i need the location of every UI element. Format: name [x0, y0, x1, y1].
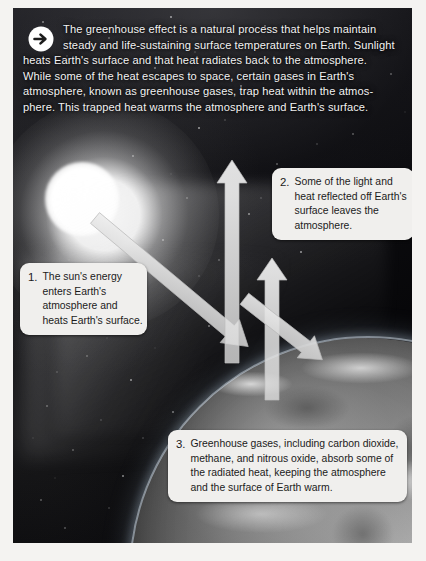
callout-text: Greenhouse gases, including carbon dioxi… — [191, 437, 399, 495]
sun-icon — [45, 162, 119, 236]
callout-step-1: 1. The sun's energy enters Earth's atmos… — [20, 263, 147, 335]
callout-line: and the surface of Earth warm. — [191, 481, 399, 496]
arrow-right-circle-icon — [27, 25, 55, 53]
intro-paragraph: The greenhouse effect is a natural proce… — [23, 22, 401, 116]
greenhouse-effect-illustration: The greenhouse effect is a natural proce… — [13, 8, 412, 543]
callout-line: surface leaves the — [295, 204, 407, 219]
callout-line: the radiated heat, keeping the atmospher… — [191, 466, 399, 481]
intro-line: phere. This trapped heat warms the atmos… — [23, 100, 401, 116]
intro-caption: The greenhouse effect is a natural proce… — [23, 22, 401, 116]
intro-line: atmosphere, known as greenhouse gases, t… — [23, 84, 401, 100]
callout-text: Some of the light and heat reflected off… — [295, 175, 407, 233]
callout-number: 2. — [280, 175, 290, 233]
callout-number: 3. — [176, 437, 186, 495]
callout-line: atmosphere and — [43, 299, 143, 314]
callout-line: Greenhouse gases, including carbon dioxi… — [191, 437, 399, 452]
figure-page: The greenhouse effect is a natural proce… — [0, 0, 426, 561]
callout-step-2: 2. Some of the light and heat reflected … — [272, 168, 412, 240]
callout-line: enters Earth's — [43, 285, 143, 300]
intro-line: heats Earth's surface and that heat radi… — [23, 53, 401, 69]
intro-line: While some of the heat escapes to space,… — [23, 69, 401, 85]
callout-step-3: 3. Greenhouse gases, including carbon di… — [168, 430, 407, 502]
callout-number: 1. — [28, 270, 38, 328]
callout-line: atmosphere. — [295, 219, 407, 234]
callout-line: heats Earth's surface. — [43, 314, 143, 329]
intro-line: The greenhouse effect is a natural proce… — [23, 22, 401, 38]
callout-line: heat reflected off Earth's — [295, 190, 407, 205]
callout-text: The sun's energy enters Earth's atmosphe… — [43, 270, 143, 328]
callout-line: methane, and nitrous oxide, absorb some … — [191, 452, 399, 467]
callout-line: The sun's energy — [43, 270, 143, 285]
intro-line: steady and life-sustaining surface tempe… — [23, 38, 401, 54]
callout-line: Some of the light and — [295, 175, 407, 190]
